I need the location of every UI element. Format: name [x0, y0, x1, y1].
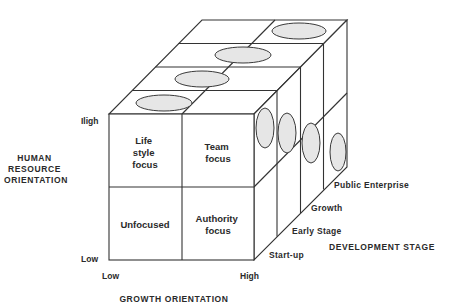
y-axis-high-label: Iligh	[81, 116, 98, 126]
side-oval-growth	[302, 123, 320, 163]
top-oval-public-enterprise	[272, 23, 326, 39]
stage-label-start-up: Start-up	[269, 250, 304, 260]
x-axis-low-label: Low	[102, 271, 119, 281]
top-oval-start-up	[136, 95, 192, 111]
cell-unfocused: Unfocused	[120, 219, 169, 230]
development-stage-cube-diagram: Life style focus Team focus Unfocused Au…	[0, 0, 450, 306]
human-resource-axis: HUMAN RESOURCE ORIENTATION Iligh Low	[4, 116, 98, 264]
development-stage-axis-title: DEVELOPMENT STAGE	[329, 242, 435, 252]
stage-label-public-enterprise: Public Enterprise	[334, 180, 409, 190]
cell-lifestyle-focus: Life style focus	[132, 135, 157, 170]
growth-orientation-axis: Low High GROWTH ORIENTATION	[102, 271, 259, 304]
x-axis-high-label: High	[240, 271, 259, 281]
side-oval-start-up	[256, 108, 274, 148]
y-axis-low-label: Low	[81, 254, 98, 264]
cell-team-focus: Team focus	[205, 141, 232, 164]
side-oval-public-enterprise	[330, 133, 346, 171]
stage-label-early-stage: Early Stage	[292, 226, 342, 236]
stage-label-growth: Growth	[311, 203, 343, 213]
top-oval-early-stage	[175, 71, 229, 87]
side-oval-early-stage	[278, 113, 296, 153]
top-oval-growth	[215, 47, 271, 63]
human-resource-axis-title: HUMAN RESOURCE ORIENTATION	[4, 153, 68, 185]
cube-front-face: Life style focus Team focus Unfocused Au…	[109, 114, 254, 260]
growth-orientation-axis-title: GROWTH ORIENTATION	[119, 294, 228, 304]
